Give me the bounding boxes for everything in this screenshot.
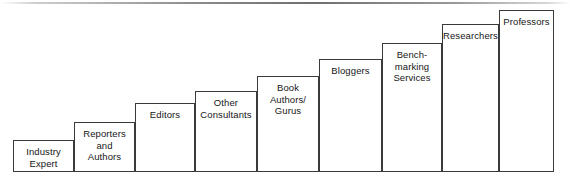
staircase-step-label: Industry Expert [25,146,62,169]
staircase-step: Bloggers [319,59,382,172]
staircase-step: Book Authors/ Gurus [257,76,319,172]
staircase-step-label: Bench- marking Services [392,49,431,84]
staircase-step-label: Editors [149,109,181,121]
staircase-step-label: Researchers [442,30,499,42]
expertise-staircase-figure: Industry ExpertReporters and AuthorsEdit… [0,0,571,187]
staircase-step-label: Book Authors/ Gurus [269,82,307,117]
staircase-step: Reporters and Authors [74,122,135,172]
staircase-step: Researchers [442,24,499,172]
staircase-step: Editors [135,103,195,172]
staircase-step-label: Bloggers [330,65,370,77]
staircase-step: Bench- marking Services [382,43,442,172]
staircase-steps-container: Industry ExpertReporters and AuthorsEdit… [0,0,571,187]
staircase-step: Industry Expert [13,140,74,172]
staircase-step-label: Professors [502,16,550,28]
staircase-step-label: Reporters and Authors [82,128,127,163]
staircase-step-label: Other Consultants [199,97,252,120]
staircase-step: Professors [499,10,554,172]
staircase-step: Other Consultants [195,91,257,172]
